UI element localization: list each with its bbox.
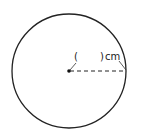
label-open-paren: ( [74, 51, 78, 62]
diagram-svg: ( ) cm [0, 0, 145, 140]
unit-label: cm [105, 51, 120, 62]
leader-line-left [70, 63, 76, 70]
circle-diagram: ( ) cm [0, 0, 145, 140]
label-close-paren: ) [100, 51, 104, 62]
